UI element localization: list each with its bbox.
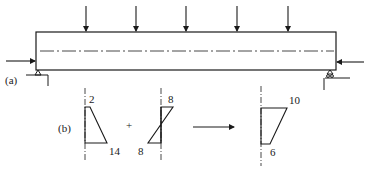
stress-diagram-1: 2 14: [85, 88, 121, 162]
vertical-loads: [86, 6, 288, 31]
result-bottom-value: 6: [270, 146, 276, 158]
pin-support-icon: [26, 70, 48, 86]
diagram-1-top-value: 2: [89, 93, 95, 105]
stress-diagram-result: 10 6: [261, 86, 301, 166]
stress-diagrams: (b) 2 14 + 8 8 10 6: [58, 86, 301, 166]
diagram-2-bottom-value: 8: [138, 145, 144, 157]
plus-operator: +: [126, 119, 132, 131]
figure-canvas: (a) (b) 2 14 + 8 8 10 6: [0, 0, 372, 173]
diagram-2-top-value: 8: [168, 93, 174, 105]
part-a-label: (a): [5, 74, 18, 87]
diagram-1-bottom-value: 14: [109, 145, 121, 157]
beam-diagram: (a): [5, 6, 364, 90]
roller-support-icon: [324, 70, 350, 90]
part-b-label: (b): [58, 122, 71, 135]
result-top-value: 10: [289, 94, 301, 106]
stress-diagram-2: 8 8: [138, 88, 174, 162]
